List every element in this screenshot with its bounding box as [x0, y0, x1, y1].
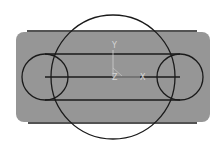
- y-axis-label: Y: [111, 41, 117, 50]
- z-axis-label: Z: [112, 73, 118, 82]
- cad-sketch-diagram: Y Z X: [0, 0, 219, 149]
- x-axis-label: X: [140, 73, 146, 82]
